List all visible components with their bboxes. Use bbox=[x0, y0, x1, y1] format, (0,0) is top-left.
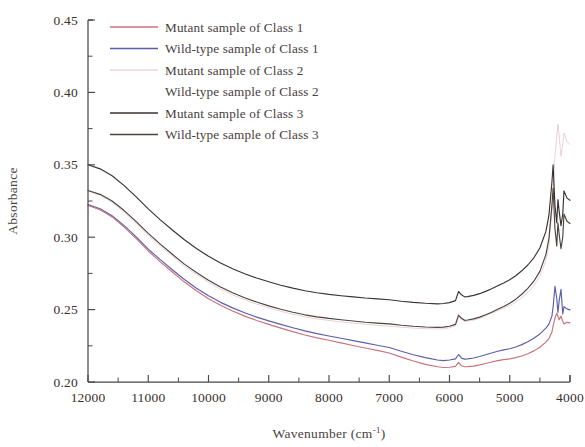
y-tick-label: 0.45 bbox=[54, 13, 78, 28]
y-tick-label: 0.40 bbox=[54, 85, 78, 100]
spectrum-curve bbox=[88, 188, 570, 327]
legend-label: Wild-type sample of Class 3 bbox=[165, 127, 319, 142]
x-tick-label: 12000 bbox=[71, 390, 106, 405]
legend: Mutant sample of Class 1Wild-type sample… bbox=[110, 20, 319, 143]
legend-label: Wild-type sample of Class 1 bbox=[165, 41, 319, 56]
x-tick-label: 10000 bbox=[191, 390, 226, 405]
spectrum-curve bbox=[88, 124, 570, 329]
spectrum-curve bbox=[88, 165, 570, 304]
x-tick-label: 6000 bbox=[436, 390, 464, 405]
spectra-figure: 0.200.250.300.350.400.451200011000100009… bbox=[0, 0, 585, 447]
absorbance-spectra-chart: 0.200.250.300.350.400.451200011000100009… bbox=[0, 0, 585, 447]
y-tick-label: 0.30 bbox=[54, 230, 78, 245]
y-axis-title: Absorbance bbox=[5, 167, 20, 234]
y-tick-label: 0.35 bbox=[54, 157, 78, 172]
x-tick-label: 7000 bbox=[375, 390, 403, 405]
spectrum-curve bbox=[88, 205, 570, 361]
legend-label: Mutant sample of Class 3 bbox=[165, 106, 304, 121]
x-tick-label: 5000 bbox=[496, 390, 524, 405]
x-tick-label: 11000 bbox=[131, 390, 165, 405]
x-tick-label: 8000 bbox=[315, 390, 343, 405]
y-tick-label: 0.20 bbox=[54, 375, 78, 390]
x-axis-title: Wavenumber (cm-1) bbox=[272, 425, 385, 441]
axes-layer bbox=[88, 20, 570, 382]
legend-label: Mutant sample of Class 2 bbox=[165, 63, 303, 78]
x-tick-label: 9000 bbox=[255, 390, 283, 405]
legend-label: Wild-type sample of Class 2 bbox=[165, 84, 319, 99]
x-tick-label: 4000 bbox=[556, 390, 584, 405]
spectra-curves-layer bbox=[88, 124, 570, 368]
legend-label: Mutant sample of Class 1 bbox=[165, 20, 303, 35]
spectrum-curve bbox=[88, 124, 570, 329]
y-tick-label: 0.25 bbox=[54, 302, 78, 317]
